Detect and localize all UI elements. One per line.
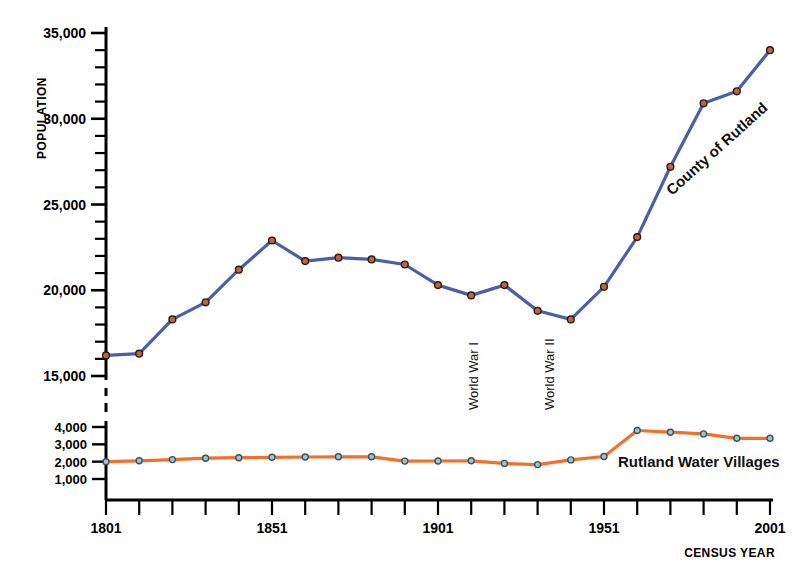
data-point bbox=[302, 258, 309, 265]
data-point bbox=[634, 234, 641, 241]
data-point bbox=[368, 256, 375, 263]
data-point bbox=[767, 47, 774, 54]
data-point bbox=[335, 254, 342, 261]
annotation-world-war-i: World War I bbox=[466, 342, 481, 410]
lower-y-tick-label: 3,000 bbox=[54, 437, 87, 452]
data-point bbox=[435, 458, 441, 464]
upper-y-tick-label: 20,000 bbox=[43, 282, 86, 298]
upper-y-tick-label: 15,000 bbox=[43, 368, 86, 384]
x-tick-label: 2001 bbox=[754, 520, 785, 536]
data-point bbox=[734, 435, 740, 441]
data-point bbox=[667, 163, 674, 170]
data-point bbox=[468, 292, 475, 299]
data-point bbox=[667, 429, 673, 435]
upper-y-tick-label: 25,000 bbox=[43, 197, 86, 213]
data-point bbox=[335, 454, 341, 460]
data-point bbox=[369, 454, 375, 460]
data-point bbox=[269, 237, 276, 244]
data-point bbox=[235, 266, 242, 273]
upper-y-tick-label: 35,000 bbox=[43, 25, 86, 41]
x-tick-label: 1951 bbox=[588, 520, 619, 536]
annotation-world-war-ii: World War II bbox=[542, 338, 557, 410]
data-point bbox=[767, 435, 773, 441]
lower-y-tick-label: 1,000 bbox=[54, 472, 87, 487]
series-label-rutland-water-villages: Rutland Water Villages bbox=[618, 453, 780, 470]
data-point bbox=[634, 428, 640, 434]
data-point bbox=[169, 457, 175, 463]
data-point bbox=[302, 454, 308, 460]
x-tick-label: 1901 bbox=[422, 520, 453, 536]
x-tick-label: 1851 bbox=[256, 520, 287, 536]
data-point bbox=[733, 88, 740, 95]
series-layer bbox=[103, 47, 774, 468]
data-point bbox=[202, 299, 209, 306]
data-point bbox=[401, 261, 408, 268]
data-point bbox=[269, 454, 275, 460]
data-point bbox=[700, 100, 707, 107]
data-point bbox=[435, 282, 442, 289]
data-point bbox=[203, 455, 209, 461]
data-point bbox=[236, 455, 242, 461]
data-point bbox=[601, 454, 607, 460]
data-point bbox=[169, 316, 176, 323]
data-point bbox=[501, 460, 507, 466]
data-point bbox=[136, 458, 142, 464]
lower-y-tick-label: 4,000 bbox=[54, 420, 87, 435]
labels-layer: POPULATIONCENSUS YEARCounty of RutlandRu… bbox=[35, 77, 780, 560]
data-point bbox=[535, 462, 541, 468]
chart-canvas: 15,00020,00025,00030,00035,0001,0002,000… bbox=[0, 0, 809, 568]
population-chart: 15,00020,00025,00030,00035,0001,0002,000… bbox=[0, 0, 809, 568]
data-point bbox=[103, 459, 109, 465]
upper-y-tick-label: 30,000 bbox=[43, 111, 86, 127]
data-point bbox=[701, 431, 707, 437]
data-point bbox=[567, 316, 574, 323]
series-line bbox=[106, 50, 770, 355]
data-point bbox=[601, 283, 608, 290]
x-tick-label: 1801 bbox=[90, 520, 121, 536]
data-point bbox=[103, 352, 110, 359]
data-point bbox=[468, 458, 474, 464]
series-county-of-rutland bbox=[103, 47, 774, 359]
lower-y-tick-label: 2,000 bbox=[54, 455, 87, 470]
data-point bbox=[501, 282, 508, 289]
data-point bbox=[402, 458, 408, 464]
x-axis-title: CENSUS YEAR bbox=[684, 546, 775, 560]
data-point bbox=[534, 307, 541, 314]
data-point bbox=[568, 457, 574, 463]
y-axis-title: POPULATION bbox=[35, 77, 49, 159]
data-point bbox=[136, 350, 143, 357]
